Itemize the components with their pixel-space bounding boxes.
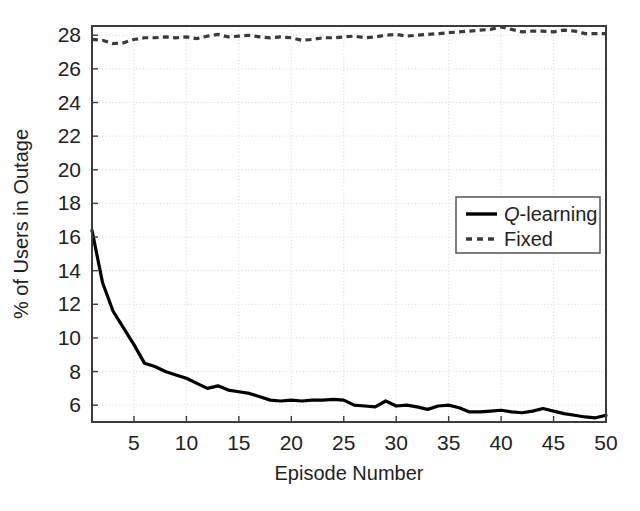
legend-label-qlearning: Q-learning: [504, 203, 597, 225]
y-tick-label: 24: [58, 91, 82, 114]
y-tick-label: 12: [58, 292, 81, 315]
y-tick-label: 22: [58, 124, 81, 147]
x-tick-label: 40: [489, 431, 512, 454]
x-tick-label: 10: [175, 431, 198, 454]
y-axis-title: % of Users in Outage: [10, 129, 32, 319]
y-tick-label: 6: [69, 393, 81, 416]
chart-figure: 5101520253035404550 68101214161820222426…: [0, 0, 640, 511]
x-tick-label: 20: [280, 431, 303, 454]
y-tick-label: 20: [58, 158, 81, 181]
x-axis-title: Episode Number: [275, 462, 424, 484]
legend-label-fixed: Fixed: [504, 228, 553, 250]
y-tick-label: 10: [58, 326, 81, 349]
legend: Q-learning Fixed: [456, 197, 600, 253]
chart-svg: 5101520253035404550 68101214161820222426…: [0, 0, 640, 511]
y-tick-label: 26: [58, 57, 81, 80]
y-tick-label: 8: [69, 360, 81, 383]
x-tick-label: 45: [542, 431, 565, 454]
x-tick-label: 35: [437, 431, 460, 454]
x-tick-label: 30: [385, 431, 408, 454]
x-tick-label: 5: [128, 431, 140, 454]
y-tick-label: 18: [58, 191, 81, 214]
x-tick-label: 25: [332, 431, 355, 454]
y-tick-label: 14: [58, 259, 82, 282]
y-tick-label: 28: [58, 23, 81, 46]
x-tick-label: 50: [594, 431, 617, 454]
x-tick-label: 15: [227, 431, 250, 454]
y-tick-label: 16: [58, 225, 81, 248]
